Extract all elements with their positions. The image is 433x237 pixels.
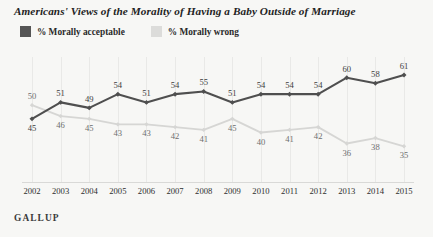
data-point-label: 58 <box>371 69 380 79</box>
plot-area: 4551495451545551545454605861504645434342… <box>0 50 433 183</box>
data-point-label: 55 <box>199 77 208 87</box>
x-axis-tick-label: 2011 <box>281 186 298 196</box>
x-axis-tick-label: 2003 <box>52 186 69 196</box>
data-point-label: 61 <box>400 61 409 71</box>
legend-swatch-morally-acceptable <box>20 26 31 37</box>
legend-label-morally-wrong: % Morally wrong <box>168 27 239 37</box>
data-point-label: 49 <box>85 94 94 104</box>
data-point-label: 41 <box>199 134 208 144</box>
x-axis-tick-label: 2012 <box>310 186 327 196</box>
legend-label-morally-acceptable: % Morally acceptable <box>37 27 125 37</box>
data-point-marker <box>144 100 149 105</box>
data-point-label: 36 <box>342 148 351 158</box>
x-axis-tick-label: 2006 <box>138 186 155 196</box>
data-point-marker <box>287 128 291 132</box>
data-point-marker <box>87 117 91 121</box>
x-axis-tick-label: 2004 <box>81 186 98 196</box>
x-axis-tick-label: 2014 <box>367 186 384 196</box>
data-point-label: 45 <box>28 123 37 133</box>
source-label: GALLUP <box>14 213 60 223</box>
data-point-label: 45 <box>228 123 237 133</box>
data-point-label: 46 <box>56 120 65 130</box>
data-point-label: 60 <box>342 64 351 74</box>
chart-container: Americans' Views of the Morality of Havi… <box>0 0 433 237</box>
data-point-marker <box>402 72 407 77</box>
data-point-label: 40 <box>257 137 266 147</box>
data-point-label: 35 <box>400 150 409 160</box>
data-point-marker <box>373 136 377 140</box>
data-point-label: 54 <box>285 80 294 90</box>
data-point-marker <box>173 92 178 97</box>
data-point-label: 50 <box>28 91 37 101</box>
data-point-label: 54 <box>171 80 180 90</box>
series-lines <box>0 50 433 183</box>
data-point-label: 54 <box>257 80 266 90</box>
chart-legend: % Morally acceptable % Morally wrong <box>20 26 265 37</box>
data-point-label: 41 <box>285 134 294 144</box>
data-point-label: 54 <box>114 80 123 90</box>
data-point-marker <box>258 92 263 97</box>
data-point-label: 42 <box>171 131 180 141</box>
data-point-marker <box>116 122 120 126</box>
legend-item-morally-wrong: % Morally wrong <box>151 26 239 37</box>
x-axis-tick-label: 2005 <box>109 186 126 196</box>
x-axis-tick-label: 2007 <box>166 186 183 196</box>
x-axis-tick-label: 2013 <box>338 186 355 196</box>
data-point-marker <box>373 81 378 86</box>
data-point-marker <box>144 122 148 126</box>
chart-title: Americans' Views of the Morality of Havi… <box>14 5 356 17</box>
x-axis-tick-label: 2008 <box>195 186 212 196</box>
x-axis-tick-label: 2010 <box>252 186 269 196</box>
data-point-label: 43 <box>142 128 151 138</box>
data-point-label: 42 <box>314 131 323 141</box>
x-axis-tick-label: 2015 <box>395 186 412 196</box>
data-point-marker <box>173 125 177 129</box>
legend-swatch-morally-wrong <box>151 26 162 37</box>
data-point-label: 45 <box>85 123 94 133</box>
data-point-label: 51 <box>228 88 237 98</box>
data-point-label: 38 <box>371 142 380 152</box>
data-point-label: 51 <box>56 88 65 98</box>
legend-item-morally-acceptable: % Morally acceptable <box>20 26 125 37</box>
x-axis-tick-label: 2002 <box>23 186 40 196</box>
data-point-label: 43 <box>114 128 123 138</box>
x-axis-labels: 2002200320042005200620072008200920102011… <box>0 186 433 200</box>
x-axis-tick-label: 2009 <box>224 186 241 196</box>
data-point-marker <box>287 92 292 97</box>
data-point-label: 51 <box>142 88 151 98</box>
data-point-label: 54 <box>314 80 323 90</box>
data-point-marker <box>402 144 406 148</box>
